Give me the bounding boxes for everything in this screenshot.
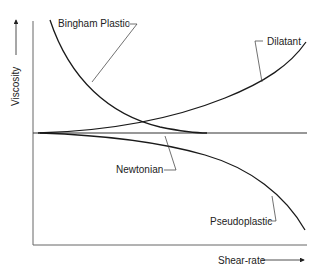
pseudoplastic-label: Pseudoplastic <box>210 216 272 227</box>
bingham-plastic-label: Bingham Plastic <box>58 18 130 29</box>
bingham-plastic-curve <box>50 20 207 133</box>
pseudoplastic-annotation: Pseudoplastic <box>210 196 276 227</box>
dilatant-leader-line <box>255 41 263 82</box>
newtonian-label: Newtonian <box>116 164 163 175</box>
x-axis-label-group: Shear-rate <box>218 255 304 266</box>
dilatant-label: Dilatant <box>267 36 301 47</box>
bingham-plastic-annotation: Bingham Plastic <box>58 18 137 82</box>
dilatant-curve <box>38 42 306 133</box>
y-axis-label: Viscosity <box>10 67 21 106</box>
rheology-diagram: Viscosity Shear-rate Bingham Plastic Dil… <box>0 0 324 275</box>
newtonian-leader-line <box>164 136 176 170</box>
x-axis-label: Shear-rate <box>218 255 266 266</box>
dilatant-annotation: Dilatant <box>255 36 301 82</box>
bingham-leader-line <box>92 24 137 82</box>
y-axis-label-group: Viscosity <box>10 20 21 106</box>
